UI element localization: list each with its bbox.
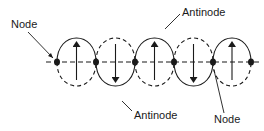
- label-node-bottom: Node: [214, 113, 240, 125]
- leader-line-antinode-bottom: [122, 101, 132, 111]
- standing-wave-diagram: Node Antinode Antinode Node: [0, 0, 264, 131]
- node-dot: [248, 58, 254, 65]
- leader-line-node-left: [28, 32, 53, 58]
- label-antinode-top: Antinode: [182, 6, 225, 18]
- leader-line-antinode-top: [165, 14, 180, 29]
- node-dot: [171, 58, 177, 65]
- node-dot: [54, 58, 60, 65]
- node-dot: [93, 58, 99, 65]
- label-node-left: Node: [11, 18, 37, 30]
- node-dot: [210, 58, 216, 65]
- label-antinode-bottom: Antinode: [134, 109, 177, 121]
- leader-line-node-bottom: [214, 70, 224, 113]
- node-dot: [132, 58, 138, 65]
